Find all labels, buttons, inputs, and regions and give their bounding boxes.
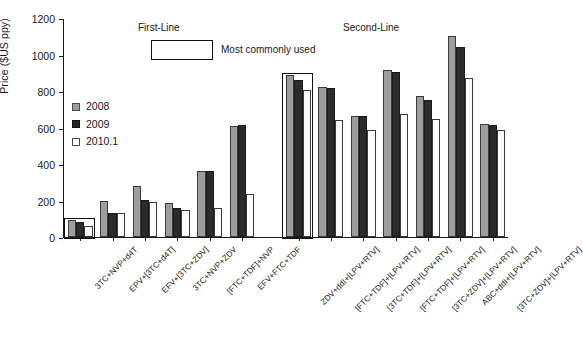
bar-2008 bbox=[480, 124, 488, 237]
bar-2010.1 bbox=[214, 208, 222, 237]
bar-2009 bbox=[108, 213, 116, 237]
x-axis-tick-mark bbox=[145, 237, 146, 241]
bar-2008 bbox=[286, 75, 294, 237]
bar-group bbox=[448, 19, 473, 237]
second-line-section-title: Second-Line bbox=[343, 22, 399, 33]
bar-2009 bbox=[424, 100, 432, 237]
first-line-section-title: First-Line bbox=[138, 22, 180, 33]
bar-2009 bbox=[173, 208, 181, 237]
bar-2009 bbox=[456, 47, 464, 237]
x-axis-tick-mark bbox=[363, 237, 364, 241]
bar-group bbox=[351, 19, 376, 237]
bar-2010.1 bbox=[84, 226, 92, 237]
legend-label-2008: 2008 bbox=[86, 100, 109, 113]
bar-2009 bbox=[238, 125, 246, 237]
x-axis-tick-mark bbox=[428, 237, 429, 241]
x-axis-tick-mark bbox=[331, 237, 332, 241]
bar-2010.1 bbox=[117, 213, 125, 237]
x-axis-tick-label: [FTC+TDF]+[LPV+RTV] bbox=[418, 245, 486, 313]
y-axis-tick-label: 0 bbox=[21, 233, 55, 243]
bar-2010.1 bbox=[181, 210, 189, 237]
bar-2010.1 bbox=[400, 114, 408, 237]
x-axis-tick-mark bbox=[177, 237, 178, 241]
bar-2008 bbox=[68, 220, 76, 237]
x-axis-tick-mark bbox=[396, 237, 397, 241]
bar-2010.1 bbox=[465, 78, 473, 237]
bar-2009 bbox=[489, 125, 497, 237]
x-axis-tick-mark bbox=[242, 237, 243, 241]
bar-group bbox=[318, 19, 343, 237]
x-axis-tick-mark bbox=[210, 237, 211, 241]
bar-2010.1 bbox=[367, 130, 375, 237]
bar-2008 bbox=[416, 96, 424, 237]
bar-group bbox=[416, 19, 441, 237]
outlined-white-swatch-icon bbox=[72, 138, 80, 146]
legend-label-2009: 2009 bbox=[86, 118, 109, 131]
y-axis-tick-mark bbox=[59, 238, 63, 239]
y-axis-label: Price ($US ppy) bbox=[0, 0, 14, 116]
bar-2008 bbox=[197, 171, 205, 237]
bar-2010.1 bbox=[432, 119, 440, 237]
x-axis-tick-mark bbox=[460, 237, 461, 241]
bar-2010.1 bbox=[497, 130, 505, 237]
bar-2010.1 bbox=[246, 194, 254, 237]
x-axis-tick-label: [3TC+TDF]+[LPV+RTV] bbox=[386, 245, 454, 313]
bar-2008 bbox=[318, 87, 326, 237]
bar-group bbox=[383, 19, 408, 237]
bar-2010.1 bbox=[149, 202, 157, 237]
y-axis-tick-label: 800 bbox=[21, 87, 55, 97]
bar-2010.1 bbox=[335, 120, 343, 237]
x-axis-tick-mark bbox=[493, 237, 494, 241]
bar-2008 bbox=[448, 36, 456, 237]
bar-2009 bbox=[359, 116, 367, 237]
y-axis-tick-label: 1000 bbox=[21, 51, 55, 61]
legend-label-2010: 2010.1 bbox=[86, 135, 118, 148]
bar-2008 bbox=[351, 116, 359, 237]
bar-2008 bbox=[383, 70, 391, 237]
bar-group bbox=[480, 19, 505, 237]
y-axis-tick-label: 200 bbox=[21, 197, 55, 207]
bar-2010.1 bbox=[303, 90, 311, 237]
y-axis-tick-label: 1200 bbox=[21, 14, 55, 24]
bar-2009 bbox=[141, 200, 149, 237]
bar-2009 bbox=[76, 222, 84, 237]
y-axis-label-wrapper: Price ($US ppy) bbox=[2, 56, 18, 196]
x-axis-tick-mark bbox=[113, 237, 114, 241]
bar-2009 bbox=[206, 171, 214, 237]
bar-2008 bbox=[230, 126, 238, 237]
bar-2009 bbox=[294, 80, 302, 237]
bar-2008 bbox=[100, 201, 108, 237]
bar-2008 bbox=[165, 203, 173, 237]
most-commonly-used-label: Most commonly used bbox=[221, 44, 315, 55]
bar-2009 bbox=[392, 72, 400, 237]
most-commonly-used-key-box bbox=[151, 40, 213, 60]
y-axis-tick-label: 600 bbox=[21, 124, 55, 134]
filled-gray-swatch-icon bbox=[72, 103, 80, 111]
bar-2009 bbox=[327, 88, 335, 237]
y-axis-tick-label: 400 bbox=[21, 160, 55, 170]
filled-black-swatch-icon bbox=[72, 120, 80, 128]
bar-2008 bbox=[133, 186, 141, 237]
